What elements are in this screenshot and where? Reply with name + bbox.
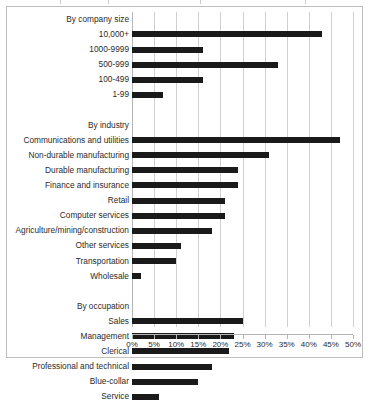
category-label: Durable manufacturing: [11, 163, 129, 178]
x-tick-25%: [243, 335, 244, 339]
bar: [132, 47, 203, 53]
bar: [132, 31, 322, 37]
non-bar-row: [132, 284, 353, 299]
bar: [132, 379, 198, 385]
bar-row: [132, 178, 353, 193]
bar-row: [132, 163, 353, 178]
chart-plot-frame: By company size10,000+1000-9999500-99910…: [6, 6, 363, 358]
x-tick-0%: [132, 335, 133, 339]
cropped-tick-mark: [200, 0, 201, 4]
x-tick-20%: [220, 335, 221, 339]
x-tick-label: 50%: [345, 340, 361, 349]
bar: [132, 182, 238, 188]
bar-row: [132, 208, 353, 223]
category-label: Service: [11, 389, 129, 404]
x-axis-tick-labels: 0%5%10%15%20%25%30%35%40%45%50%: [132, 340, 353, 352]
x-tick-label: 25%: [234, 340, 250, 349]
group-header-label: By occupation: [11, 299, 129, 314]
bar: [132, 62, 278, 68]
bar-row: [132, 87, 353, 102]
category-label: Agriculture/mining/construction: [11, 223, 129, 238]
x-tick-10%: [176, 335, 177, 339]
x-tick-label: 0%: [126, 340, 138, 349]
non-bar-row: [132, 299, 353, 314]
category-label: Blue-collar: [11, 374, 129, 389]
bar-row: [132, 223, 353, 238]
spacer-label: [11, 284, 129, 299]
category-label: Computer services: [11, 208, 129, 223]
x-tick-label: 45%: [323, 340, 339, 349]
bar: [132, 318, 243, 324]
group-header-label: By industry: [11, 118, 129, 133]
bar: [132, 198, 225, 204]
category-label: Retail: [11, 193, 129, 208]
non-bar-row: [132, 103, 353, 118]
category-label: 1000-9999: [11, 42, 129, 57]
bar-row: [132, 72, 353, 87]
bar: [132, 394, 159, 400]
x-tick-35%: [287, 335, 288, 339]
bar-row: [132, 238, 353, 253]
x-tick-label: 10%: [168, 340, 184, 349]
non-bar-row: [132, 118, 353, 133]
bar-rows: [132, 12, 353, 327]
bar-row: [132, 389, 353, 404]
category-label: 10,000+: [11, 27, 129, 42]
category-label: Clerical: [11, 344, 129, 359]
x-axis-ticks: [132, 335, 353, 339]
bar-row: [132, 133, 353, 148]
x-tick-label: 5%: [148, 340, 160, 349]
bar-row: [132, 193, 353, 208]
bar: [132, 228, 212, 234]
cropped-tick-mark: [305, 0, 306, 4]
gridline-50%: [353, 12, 354, 327]
bar-row: [132, 374, 353, 389]
category-label: Communications and utilities: [11, 133, 129, 148]
bar-row: [132, 148, 353, 163]
group-header-label: By company size: [11, 12, 129, 27]
x-tick-label: 40%: [301, 340, 317, 349]
cropped-tick-mark: [60, 0, 61, 4]
x-tick-label: 15%: [190, 340, 206, 349]
bar-row: [132, 359, 353, 374]
x-tick-15%: [198, 335, 199, 339]
category-label-column: By company size10,000+1000-9999500-99910…: [11, 12, 129, 327]
bar: [132, 364, 212, 370]
category-label: Transportation: [11, 254, 129, 269]
x-tick-label: 30%: [257, 340, 273, 349]
bar: [132, 243, 181, 249]
x-tick-5%: [154, 335, 155, 339]
cropped-tick-mark: [108, 0, 109, 4]
category-label: Other services: [11, 238, 129, 253]
non-bar-row: [132, 12, 353, 27]
bar-row: [132, 57, 353, 72]
bar: [132, 167, 238, 173]
plot-area: [132, 12, 353, 327]
bar: [132, 258, 176, 264]
bar: [132, 213, 225, 219]
bar: [132, 92, 163, 98]
x-tick-label: 20%: [212, 340, 228, 349]
bar-row: [132, 314, 353, 329]
x-tick-30%: [265, 335, 266, 339]
category-label: 1-99: [11, 87, 129, 102]
bar: [132, 273, 141, 279]
category-label: Sales: [11, 314, 129, 329]
category-label: 100-499: [11, 72, 129, 87]
category-label: 500-999: [11, 57, 129, 72]
x-tick-40%: [309, 335, 310, 339]
category-label: Wholesale: [11, 269, 129, 284]
x-tick-45%: [331, 335, 332, 339]
x-tick-50%: [353, 335, 354, 339]
bar-row: [132, 27, 353, 42]
category-label: Management: [11, 329, 129, 344]
category-label: Professional and technical: [11, 359, 129, 374]
bar-row: [132, 269, 353, 284]
bar-row: [132, 42, 353, 57]
category-label: Finance and insurance: [11, 178, 129, 193]
bar: [132, 152, 269, 158]
category-label: Non-durable manufacturing: [11, 148, 129, 163]
bar-row: [132, 254, 353, 269]
bar: [132, 137, 340, 143]
